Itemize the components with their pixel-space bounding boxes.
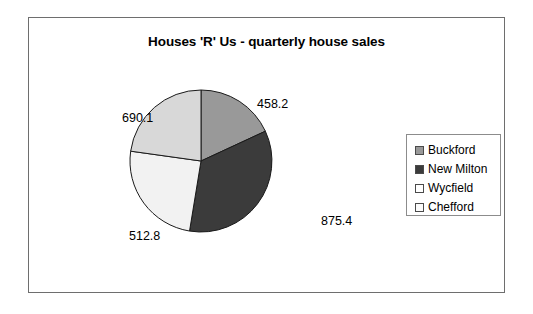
data-label-buckford: 458.2	[257, 97, 288, 111]
chart-legend: Buckford New Milton Wycfield Chefford	[406, 134, 501, 216]
pie-slice-chefford[interactable]	[130, 151, 201, 231]
legend-swatch-new-milton	[415, 165, 424, 174]
chart-frame: Houses 'R' Us - quarterly house sales 45…	[28, 17, 505, 293]
legend-swatch-wycfield	[415, 184, 424, 193]
data-label-new-milton: 875.4	[321, 214, 352, 228]
legend-item-new-milton[interactable]: New Milton	[415, 160, 500, 178]
legend-label-buckford: Buckford	[428, 144, 475, 156]
data-label-chefford: 512.8	[129, 229, 160, 243]
legend-label-wycfield: Wycfield	[428, 182, 473, 194]
legend-label-new-milton: New Milton	[428, 163, 487, 175]
pie-plot-area: 458.2 875.4 512.8 690.1 Buckford New Mil…	[29, 18, 504, 292]
legend-swatch-buckford	[415, 146, 424, 155]
legend-swatch-chefford	[415, 203, 424, 212]
data-label-wycfield: 690.1	[122, 111, 153, 125]
legend-item-chefford[interactable]: Chefford	[415, 198, 500, 216]
pie-chart-graphic	[126, 86, 276, 236]
legend-item-buckford[interactable]: Buckford	[415, 141, 500, 159]
legend-label-chefford: Chefford	[428, 201, 474, 213]
pie-slice-wycfield[interactable]	[131, 90, 201, 161]
legend-item-wycfield[interactable]: Wycfield	[415, 179, 500, 197]
